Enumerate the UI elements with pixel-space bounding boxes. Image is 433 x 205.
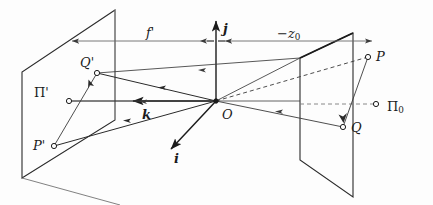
label-axis-k: k — [142, 108, 151, 121]
label-origin: O — [222, 108, 233, 121]
label-object-distance: −z0 — [277, 27, 300, 42]
label-point-Q-prime: Q' — [80, 56, 94, 69]
construction-ray-lower — [216, 58, 300, 101]
perspective-edge-bottom-left — [22, 178, 120, 205]
axis-point-ray-left — [69, 100, 216, 105]
axis-i — [171, 101, 216, 149]
marker-Q — [340, 124, 345, 129]
marker-object-axis-point — [373, 101, 378, 106]
label-point-P: P — [376, 50, 385, 63]
label-axis-i: i — [174, 152, 179, 165]
marker-P-prime — [51, 143, 56, 148]
label-point-P-prime: P' — [33, 139, 45, 152]
construction-ray-upper — [97, 58, 300, 73]
optics-projection-figure: f' −z0 j i k O Π' Π0 P Q P' Q' — [0, 0, 433, 205]
marker-Q-prime — [94, 70, 99, 75]
label-focal-length: f' — [146, 26, 154, 39]
label-object-plane: Π0 — [387, 100, 404, 115]
marker-image-axis-point — [66, 98, 71, 103]
figure-canvas — [0, 0, 433, 205]
ray-P-to-O — [216, 57, 368, 101]
label-point-Q: Q — [351, 121, 362, 134]
marker-P — [365, 54, 370, 59]
label-image-plane: Π' — [34, 86, 49, 99]
marker-origin — [214, 99, 218, 103]
perspective-edge-bottom-right — [120, 160, 300, 205]
point-markers — [51, 54, 378, 148]
ray-Q-to-O — [216, 101, 343, 127]
label-axis-j: j — [223, 22, 228, 35]
